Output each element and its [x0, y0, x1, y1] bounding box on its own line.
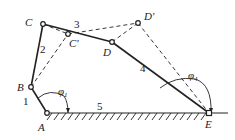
linkage-diagram: A B C C' D D' E 1 2 3 4 5 φ1 φ4 — [0, 0, 235, 140]
joint-D — [110, 40, 115, 45]
link-2 — [31, 24, 43, 87]
label-B: B — [17, 81, 24, 93]
joint-B — [29, 85, 34, 90]
label-C: C — [25, 16, 33, 28]
joint-C-prime — [66, 32, 71, 37]
label-C-prime: C' — [69, 37, 79, 49]
label-D: D — [102, 46, 111, 58]
label-D-prime: D' — [143, 10, 155, 22]
label-link-5: 5 — [97, 100, 103, 112]
joint-C — [41, 22, 46, 27]
label-link-2: 2 — [40, 43, 46, 55]
linkage-bars — [31, 24, 209, 113]
joint-A — [45, 111, 50, 116]
label-E: E — [204, 118, 212, 130]
label-phi4: φ4 — [188, 69, 198, 83]
label-link-4: 4 — [140, 62, 146, 74]
ground-hatching — [47, 113, 206, 120]
link-1 — [31, 87, 47, 113]
ground — [47, 113, 228, 120]
label-link-3: 3 — [74, 18, 80, 30]
joint-D-prime — [136, 21, 141, 26]
joints — [29, 21, 212, 116]
alternate-position-dashed — [31, 23, 209, 113]
joint-E — [207, 111, 212, 116]
label-phi1: φ1 — [58, 85, 68, 99]
label-A: A — [37, 121, 45, 133]
label-link-1: 1 — [23, 95, 29, 107]
